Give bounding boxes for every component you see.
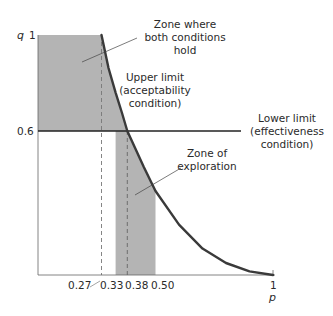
upper-limit-label: Upper limit (acceptability condition) (115, 71, 195, 110)
y-axis-label: q (17, 29, 24, 42)
x-tick-050: 0.50 (151, 279, 174, 291)
exploration-zone-label: Zone of exploration (172, 147, 242, 173)
lower-limit-label: Lower limit (effectiveness condition) (241, 112, 333, 151)
both-zone-label: Zone where both conditions hold (140, 18, 230, 57)
y-tick-06: 0.6 (17, 125, 34, 137)
x-axis-label: p (269, 291, 276, 304)
exploration-zone (116, 93, 156, 275)
x-tick-038: 0.38 (125, 279, 148, 291)
leader-tick-027 (90, 281, 100, 287)
x-tick-one: 1 (270, 279, 277, 291)
x-tick-027: 0.27 (68, 279, 91, 291)
x-tick-033: 0.33 (100, 279, 123, 291)
y-tick-1: 1 (29, 29, 36, 41)
